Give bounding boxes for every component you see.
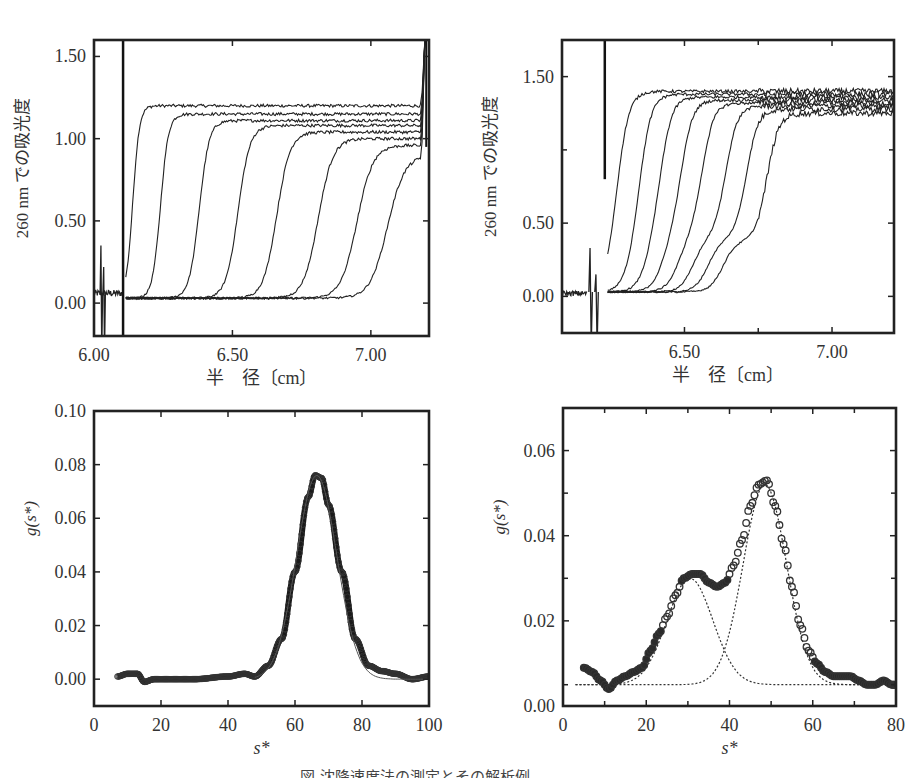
y-tick-label: 0.00 <box>55 669 87 689</box>
scan-line <box>126 40 425 277</box>
figure-caption: 図 沈降速度法の測定とその解析例 <box>300 766 700 778</box>
plot-frame <box>94 40 429 336</box>
data-point <box>784 562 791 569</box>
scan-line <box>126 40 425 299</box>
x-tick-label: 80 <box>353 715 371 735</box>
scan-line <box>608 100 894 292</box>
gaussian-component <box>576 485 897 685</box>
x-tick-label: 7.00 <box>816 342 848 362</box>
y-axis-label: g(s*) <box>21 501 40 536</box>
y-tick-label: 1.00 <box>55 129 87 149</box>
y-tick-label: 0.00 <box>523 286 555 306</box>
y-tick-label: 1.50 <box>523 67 555 87</box>
x-axis-label: 半 径〔cm〕 <box>206 368 318 388</box>
x-axis-label: s* <box>721 738 737 758</box>
data-markers <box>118 475 430 682</box>
y-axis-label: g(s*) <box>490 499 509 534</box>
x-axis-label: s* <box>253 738 269 758</box>
chart-bottom-right-gs-distribution: 0.000.020.040.06020406080s*g(s*) <box>490 408 905 758</box>
plot-frame <box>563 408 896 706</box>
x-axis-label: 半 径〔cm〕 <box>672 365 784 385</box>
scan-line <box>126 40 425 299</box>
y-tick-label: 0.00 <box>55 293 87 313</box>
y-tick-label: 0.06 <box>55 508 87 528</box>
chart-top-left-absorbance-scans: 0.000.501.001.506.006.507.00半 径〔cm〕260 n… <box>13 40 429 388</box>
data-point <box>793 603 800 610</box>
x-tick-label: 100 <box>416 715 443 735</box>
chart-top-right-absorbance-scans: 0.000.501.506.507.00半 径〔cm〕260 nm での吸光度 <box>481 40 894 385</box>
data-point <box>743 520 750 527</box>
x-tick-label: 40 <box>219 715 237 735</box>
y-tick-label: 0.02 <box>55 616 87 636</box>
scan-line <box>126 40 425 299</box>
gaussian-component <box>576 578 897 684</box>
x-tick-label: 6.00 <box>78 345 110 365</box>
y-tick-label: 0.08 <box>55 455 87 475</box>
scan-line <box>126 40 425 299</box>
y-tick-label: 1.50 <box>55 46 87 66</box>
chart-bottom-left-gs-distribution: 0.000.020.040.060.080.10020406080100s*g(… <box>21 401 443 758</box>
data-point <box>782 547 789 554</box>
scan-line <box>126 40 425 299</box>
scan-line <box>608 110 894 292</box>
x-tick-label: 20 <box>152 715 170 735</box>
scan-line <box>608 103 894 293</box>
y-tick-label: 0.06 <box>524 441 556 461</box>
y-tick-label: 0.04 <box>55 562 87 582</box>
y-tick-label: 0.04 <box>524 526 556 546</box>
scan-line <box>126 40 425 299</box>
x-tick-label: 20 <box>637 715 655 735</box>
scan-line <box>608 94 894 292</box>
x-tick-label: 60 <box>286 715 304 735</box>
x-tick-label: 40 <box>721 715 739 735</box>
scan-line <box>608 106 894 293</box>
x-tick-label: 60 <box>804 715 822 735</box>
scan-line <box>608 97 894 292</box>
scan-line <box>126 40 425 299</box>
y-tick-label: 0.02 <box>524 611 556 631</box>
x-tick-label: 7.00 <box>355 345 387 365</box>
x-tick-label: 0 <box>90 715 99 735</box>
y-tick-label: 0.50 <box>523 213 555 233</box>
y-tick-label: 0.50 <box>55 211 87 231</box>
x-tick-label: 6.50 <box>669 342 701 362</box>
scan-line <box>608 91 894 290</box>
figure: 0.000.501.001.506.006.507.00半 径〔cm〕260 n… <box>0 0 924 778</box>
x-tick-label: 80 <box>887 715 905 735</box>
data-point <box>735 549 742 556</box>
x-tick-label: 0 <box>559 715 568 735</box>
x-tick-label: 6.50 <box>217 345 249 365</box>
data-point <box>751 492 758 499</box>
y-tick-label: 0.00 <box>524 696 556 716</box>
scan-line <box>608 88 894 254</box>
y-axis-label: 260 nm での吸光度 <box>13 98 32 239</box>
figure-canvas: 0.000.501.001.506.006.507.00半 径〔cm〕260 n… <box>0 0 924 778</box>
y-axis-label: 260 nm での吸光度 <box>481 96 500 237</box>
y-tick-label: 0.10 <box>55 401 87 421</box>
plot-frame <box>94 411 429 706</box>
